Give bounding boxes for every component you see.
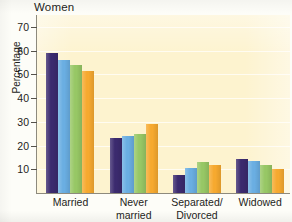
- y-axis-tick-label: 70: [0, 21, 29, 33]
- y-axis-tick: [31, 27, 37, 28]
- y-axis-tick: [31, 169, 37, 170]
- bar: [46, 53, 58, 193]
- bar-shading: [146, 124, 158, 193]
- y-axis-tick: [31, 51, 37, 52]
- bar-shading: [46, 53, 58, 193]
- bar-shading: [260, 165, 272, 193]
- bar: [248, 161, 260, 193]
- bar: [236, 159, 248, 193]
- bar: [82, 71, 94, 193]
- y-axis-spine: [36, 15, 37, 194]
- y-axis-tick-label: 50: [0, 68, 29, 80]
- bar-shading: [236, 159, 248, 193]
- plot-area: [37, 15, 290, 193]
- y-axis-tick-label: 20: [0, 140, 29, 152]
- y-axis-tick: [31, 98, 37, 99]
- bar-group: [46, 15, 94, 193]
- x-axis-spine: [36, 193, 290, 194]
- bar: [173, 175, 185, 193]
- bar-shading: [272, 169, 284, 193]
- bar: [197, 162, 209, 193]
- bar: [70, 65, 82, 193]
- bar: [260, 165, 272, 193]
- bar: [110, 138, 122, 193]
- bar: [146, 124, 158, 193]
- bar-shading: [122, 136, 134, 193]
- y-axis-tick-label: 10: [0, 163, 29, 175]
- bar-shading: [209, 165, 221, 193]
- y-axis-tick-label: 60: [0, 45, 29, 57]
- bar-group: [173, 15, 221, 193]
- bar-shading: [70, 65, 82, 193]
- bar-group: [110, 15, 158, 193]
- bar-shading: [185, 168, 197, 193]
- bar: [134, 134, 146, 193]
- bar: [185, 168, 197, 193]
- y-axis-tick: [31, 74, 37, 75]
- bar-shading: [58, 60, 70, 193]
- bar-shading: [134, 134, 146, 193]
- y-axis-tick-label: 30: [0, 116, 29, 128]
- bar: [122, 136, 134, 193]
- bar: [272, 169, 284, 193]
- x-axis-category-line: Divorced: [152, 209, 242, 222]
- bar-shading: [110, 138, 122, 193]
- y-axis-tick: [31, 122, 37, 123]
- bar-shading: [248, 161, 260, 193]
- bar-group: [236, 15, 284, 193]
- x-axis-category-label: Widowed: [215, 196, 292, 209]
- chart-title: Women: [34, 1, 74, 13]
- bar: [209, 165, 221, 193]
- chart-figure: Women Percentage 10203040506070 MarriedN…: [0, 0, 292, 222]
- y-axis-tick-label: 40: [0, 92, 29, 104]
- y-axis-tick: [31, 146, 37, 147]
- bar-shading: [173, 175, 185, 193]
- bar: [58, 60, 70, 193]
- bar-shading: [82, 71, 94, 193]
- bar-shading: [197, 162, 209, 193]
- x-axis-category-line: Widowed: [215, 196, 292, 209]
